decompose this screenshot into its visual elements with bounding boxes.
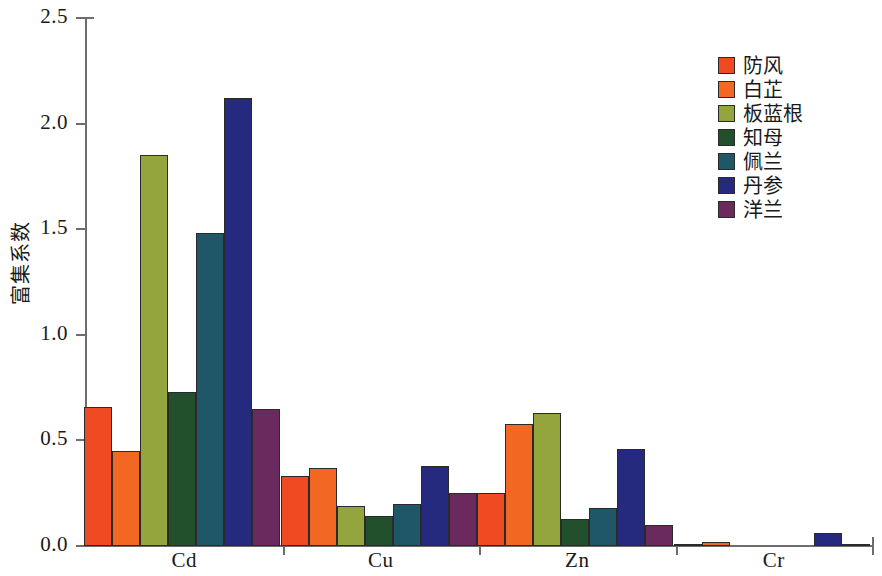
legend-swatch-icon	[718, 129, 735, 146]
y-axis-tick	[76, 123, 85, 125]
legend-swatch-icon	[718, 153, 735, 170]
y-axis-tick-label: 2.0	[4, 112, 68, 133]
legend-label: 防风	[743, 56, 783, 76]
y-axis-tick-label: 1.0	[4, 323, 68, 344]
bar	[84, 407, 112, 546]
bar	[337, 506, 365, 546]
legend-item: 防风	[718, 54, 868, 77]
legend-item: 佩兰	[718, 150, 868, 173]
y-axis-title: 富集系数	[5, 188, 34, 338]
legend-label: 丹参	[743, 176, 783, 196]
bar	[449, 493, 477, 546]
x-axis-group-label-cu: Cu	[283, 550, 480, 571]
y-axis-tick-label: 0.0	[4, 534, 68, 555]
legend-label: 佩兰	[743, 152, 783, 172]
bar	[281, 476, 309, 546]
bar	[393, 504, 421, 546]
bar	[140, 155, 168, 546]
legend-label: 板蓝根	[743, 104, 803, 124]
y-axis-tick	[76, 17, 85, 19]
bar	[702, 542, 730, 546]
bar	[533, 413, 561, 546]
x-axis-group-label-cd: Cd	[86, 550, 283, 571]
bar	[309, 468, 337, 546]
x-axis-group-label-cr: Cr	[676, 550, 873, 571]
legend-swatch-icon	[718, 177, 735, 194]
legend-swatch-icon	[718, 105, 735, 122]
bar	[617, 449, 645, 546]
bar	[365, 516, 393, 546]
bar	[645, 525, 673, 546]
legend-label: 知母	[743, 128, 783, 148]
x-axis-group-label-zn: Zn	[479, 550, 676, 571]
legend-item: 洋兰	[718, 198, 868, 221]
y-axis-tick-label: 0.5	[4, 428, 68, 449]
bar	[196, 233, 224, 546]
bar	[561, 519, 589, 546]
bar-chart: 富集系数 0.00.51.01.52.02.5 CdCuZnCr 防风白芷板蓝根…	[0, 0, 882, 576]
bar	[814, 533, 842, 546]
bar	[112, 451, 140, 546]
legend-label: 白芷	[743, 80, 783, 100]
legend-swatch-icon	[718, 57, 735, 74]
y-axis-tick-label: 1.5	[4, 217, 68, 238]
bar	[505, 424, 533, 546]
y-axis-tick	[76, 334, 85, 336]
legend-label: 洋兰	[743, 200, 783, 220]
legend: 防风白芷板蓝根知母佩兰丹参洋兰	[718, 54, 868, 222]
bar	[477, 493, 505, 546]
bar	[589, 508, 617, 546]
bar	[224, 98, 252, 546]
legend-swatch-icon	[718, 201, 735, 218]
x-axis-tick	[872, 547, 874, 555]
legend-item: 板蓝根	[718, 102, 868, 125]
bar	[168, 392, 196, 546]
bar	[674, 544, 702, 546]
y-axis-tick	[76, 228, 85, 230]
bar	[842, 544, 870, 546]
y-axis-tick-label: 2.5	[4, 6, 68, 27]
legend-swatch-icon	[718, 81, 735, 98]
legend-item: 知母	[718, 126, 868, 149]
bar	[421, 466, 449, 546]
x-axis-right-cap	[872, 537, 874, 547]
bar	[252, 409, 280, 546]
legend-item: 丹参	[718, 174, 868, 197]
legend-item: 白芷	[718, 78, 868, 101]
